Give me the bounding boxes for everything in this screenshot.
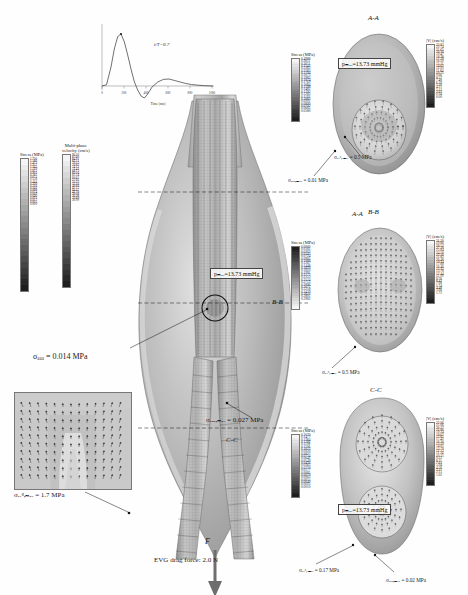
colorbar-swatch bbox=[427, 104, 434, 107]
section-label-cc-main: C-C bbox=[226, 437, 238, 444]
panel-aa-pressure-box: pₘₐₓ=13.73 mmHg bbox=[338, 58, 391, 69]
panel-cc-stress-colorbar: Stress (MPa) 0.16700.14770.13840.12910.1… bbox=[291, 428, 315, 498]
colorbar-tick-label: 1.02 bbox=[436, 474, 444, 476]
panel-bb-ann-evg: σₑᵥᵍ,ₘₐₓ = 0.5 MPa bbox=[322, 370, 360, 375]
panel-bb-section-view bbox=[332, 220, 428, 360]
panel-aa-ann-evg: σₑᵥᵍ,ₘₐₓ = 0.5 MPa bbox=[334, 155, 372, 160]
colorbar-swatch bbox=[21, 285, 28, 291]
section-label-bb-main: B-B bbox=[272, 299, 283, 306]
colorbar-tick-label: 30.99 bbox=[72, 199, 79, 201]
main-stress-colorbar-values: 1.7001.5861.4721.3571.2431.1291.0150.901… bbox=[30, 158, 37, 205]
panel-aa-ann-aaa: σₐₐₐ,ₘₐₓ = 0.01 MPa bbox=[288, 178, 328, 183]
figure-canvas: 0 200 400 600 800 1000 t/T=0.7 Time (ms)… bbox=[0, 0, 468, 595]
main-stress-colorbar: Stress (MPa) 1.7001.5861.4721.3571.2431.… bbox=[20, 152, 44, 292]
panel-cc-velocity-colorbar: |V| (cm/s) 22.0621.0620.3721.0619.3418.6… bbox=[426, 416, 444, 486]
panel-cc-stress-values: 0.16700.14770.13840.12910.11980.11060.10… bbox=[301, 434, 310, 488]
colorbar-swatch bbox=[292, 494, 299, 497]
annotation-sigma-aaa: σₐₐₐ = 0.014 MPa bbox=[33, 353, 88, 361]
panel-aa-stress-colorbar: Stress (MPa) 0.49880.26110.26110.25420.2… bbox=[291, 52, 315, 122]
panel-cc-title: C-C bbox=[370, 386, 382, 394]
colorbar-tick-label: 0.0010 bbox=[301, 486, 310, 488]
colorbar-tick-label: 0.3982 bbox=[301, 298, 310, 300]
force-label: F bbox=[205, 538, 210, 546]
colorbar-tick-label: 1.72 bbox=[436, 292, 444, 294]
panel-aa-section-view bbox=[330, 26, 428, 186]
panel-bb-stress-colorbar: Stress (MPa) 0.00000.01810.03620.05430.0… bbox=[291, 240, 315, 310]
colorbar-swatch bbox=[427, 300, 434, 303]
aaa-vessel-render bbox=[120, 95, 310, 565]
panel-cc-velocity-values: 22.0621.0620.3721.0619.3418.6217.6117.42… bbox=[436, 422, 444, 476]
panel-cc-ann-aaa: σₐₐₐ,ₘₐₓ = 0.02 MPa bbox=[386, 578, 426, 583]
panel-bb-title: B-B bbox=[368, 208, 379, 216]
main-velocity-colorbar: Multi-phase velocity (cm/s) 90.3087.6084… bbox=[62, 143, 90, 288]
wave-peak-marker bbox=[120, 33, 122, 35]
panel-aa-stress-values: 0.49880.26110.26110.25420.23620.22830.21… bbox=[301, 58, 310, 112]
force-arrow bbox=[208, 581, 222, 595]
panel-bb-velocity-colorbar: |V| (cm/s) 31.2029.8628.5227.1825.8424.5… bbox=[426, 234, 444, 304]
colorbar-swatch bbox=[292, 118, 299, 121]
panel-cc-ann-evg: σₑᵥᵍ,ₘₐₓ = 0.17 MPa bbox=[299, 568, 339, 573]
colorbar-swatch bbox=[63, 281, 70, 287]
velocity-vector-inset bbox=[14, 392, 132, 490]
panel-aa-velocity-values: 23.8322.7421.6520.5619.4718.3817.2916.20… bbox=[436, 44, 444, 98]
annotation-sigma-aaa-max: σₐₐₐ,ₘₐₓ = 0.027 MPa bbox=[206, 417, 263, 424]
panel-aa-title: A-A bbox=[368, 14, 379, 22]
panel-aa-velocity-colorbar: |V| (cm/s) 23.8322.7421.6520.5619.4718.3… bbox=[426, 38, 444, 108]
annotation-sigma-evg-max: σₑᵥᵍ,ₘₐₓ = 1.7 MPa bbox=[14, 492, 65, 499]
colorbar-tick-label: 0.000 bbox=[30, 203, 37, 205]
colorbar-tick-label: 0.0580 bbox=[301, 110, 310, 112]
drag-force-label: EVG drag force: 2.0 N bbox=[154, 557, 218, 564]
colorbar-swatch bbox=[427, 482, 434, 485]
wave-annotation: t/T=0.7 bbox=[154, 42, 170, 47]
panel-bb: B-B Stress (MPa) 0.00000.01810.03620.054… bbox=[292, 208, 468, 368]
panel-bb-stress-values: 0.00000.01810.03620.05430.07240.09050.10… bbox=[301, 246, 310, 300]
main-pressure-box: pₘₐₓ=13.73 mmHg bbox=[210, 268, 263, 279]
panel-cc: C-C Stress (MPa) 0.16700.14770.13840.129… bbox=[292, 386, 468, 566]
wave-xtick-0: 0 bbox=[101, 91, 103, 95]
colorbar-tick-label: 0.00 bbox=[436, 96, 444, 98]
panel-cc-pressure-box: pₘₐₓ=13.73 mmHg bbox=[338, 504, 391, 515]
panel-cc-section-view bbox=[332, 396, 432, 558]
colorbar-swatch bbox=[292, 306, 299, 309]
main-velocity-colorbar-values: 90.3087.6084.9182.2179.5276.8274.1271.43… bbox=[72, 154, 79, 201]
panel-aa: A-A Stress (MPa) 0.49880.26110.26110.254… bbox=[292, 14, 468, 192]
panel-bb-velocity-values: 31.2029.8628.5227.1825.8424.5023.1621.82… bbox=[436, 240, 444, 294]
